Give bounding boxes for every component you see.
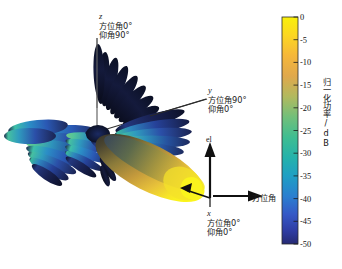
elevation-arrow — [205, 142, 216, 198]
colorbar-tick: -45 — [300, 217, 311, 226]
colorbar-tick: 0 — [300, 13, 304, 22]
pattern-plot-canvas — [0, 0, 342, 269]
z-axis-label: z 方位角0° 仰角90° — [99, 12, 132, 40]
radiation-pattern-surface — [4, 44, 214, 216]
x-axis-elevation-text: 仰角0° — [207, 228, 240, 237]
colorbar-tick: -10 — [300, 58, 311, 67]
elevation-arrow-label: el — [206, 135, 212, 144]
radiation-pattern-figure: z 方位角0° 仰角90° y 方位角90° 仰角0° x 方位角0° 仰角0°… — [0, 0, 342, 269]
y-axis-label: y 方位角90° 仰角0° — [208, 86, 247, 114]
colorbar — [282, 17, 298, 244]
colorbar-tick: -35 — [300, 171, 311, 180]
colorbar-tick: -40 — [300, 194, 311, 203]
z-axis-elevation-text: 仰角90° — [99, 31, 132, 40]
x-axis-label: x 方位角0° 仰角0° — [207, 209, 240, 237]
colorbar-tick: -15 — [300, 81, 311, 90]
y-axis-elevation-text: 仰角0° — [208, 105, 247, 114]
azimuth-arrow-label: 方位角 — [252, 191, 276, 203]
colorbar-tick: -30 — [300, 149, 311, 158]
colorbar-title: 归一化功率/dB — [316, 78, 330, 148]
colorbar-tick: -5 — [300, 35, 307, 44]
colorbar-tick: -20 — [300, 103, 311, 112]
colorbar-tick: -25 — [300, 126, 311, 135]
colorbar-tick: -50 — [300, 240, 311, 249]
